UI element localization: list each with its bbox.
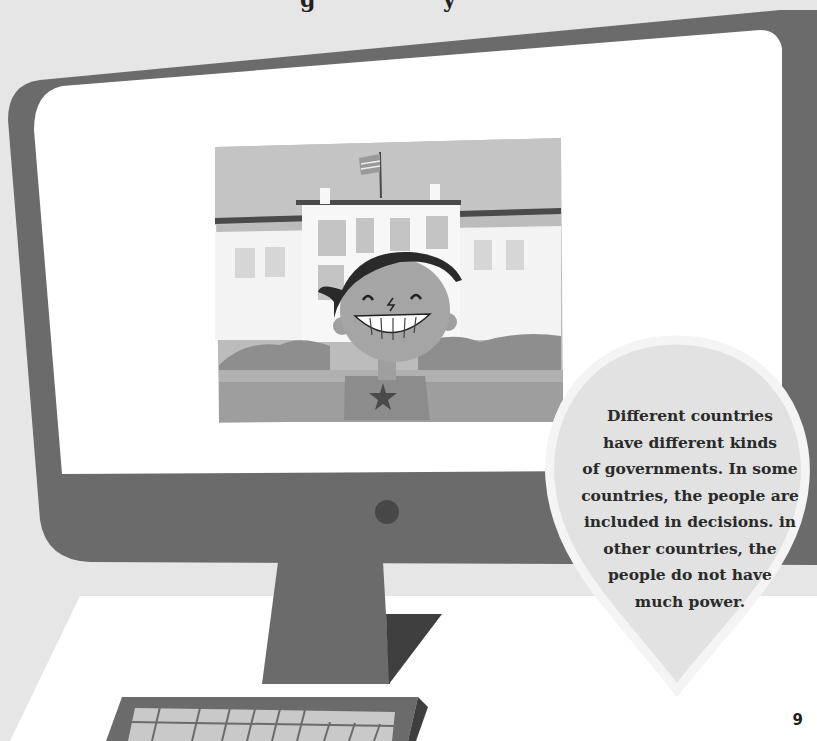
callout-line: Different countries xyxy=(570,403,810,430)
callout-line: included in decisions. in xyxy=(570,509,810,536)
keyboard-icon xyxy=(106,697,428,741)
callout-line: have different kinds xyxy=(570,430,810,457)
callout-line: countries, the people are xyxy=(570,483,810,510)
callout-text: Different countries have different kinds… xyxy=(570,403,810,615)
callout-line: much power. xyxy=(570,589,810,616)
book-page: g y xyxy=(0,0,817,741)
monitor-stand xyxy=(262,562,390,684)
callout-line: other countries, the xyxy=(570,536,810,563)
boy-in-front-of-building-picture xyxy=(215,138,563,423)
callout-line: of governments. In some xyxy=(570,456,810,483)
callout-line: people do not have xyxy=(570,562,810,589)
power-button-icon xyxy=(375,500,399,524)
monitor-illustration xyxy=(0,0,817,741)
page-number: 9 xyxy=(793,711,803,729)
